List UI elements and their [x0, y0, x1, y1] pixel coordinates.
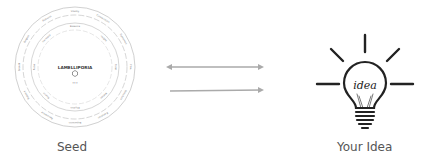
your-idea-caption: Your Idea — [337, 140, 392, 154]
wheel-label: Resonance — [40, 110, 53, 119]
forward-arrow — [170, 87, 264, 93]
wheel-center-icon — [73, 71, 78, 77]
wheel-label: Essence — [70, 25, 80, 28]
wheel-label: Connections — [96, 14, 111, 24]
wheel-label: Harmony — [42, 33, 52, 43]
wheel-label: Expansion — [68, 121, 81, 124]
wheel-label: Growth — [18, 62, 21, 71]
seed-wheel: VitalityConnectionsDynamicsFlowStructure… — [15, 7, 135, 127]
bidirectional-arrow — [166, 64, 264, 70]
wheel-label: Vitality — [71, 10, 80, 13]
wheel-label: Pulse — [33, 63, 36, 70]
wheel-center-title: LAMELLIPORIA — [58, 65, 93, 70]
wheel-label: Form — [114, 64, 117, 71]
wheel-label: Dynamics — [119, 33, 128, 45]
wheel-label: Rhythm — [70, 106, 80, 109]
wheel-center-subtitle: ••• — [72, 81, 78, 85]
wheel-label: Source — [42, 91, 50, 99]
wheel-label: Flow — [129, 64, 132, 70]
seed-caption: Seed — [57, 140, 87, 154]
bulb-text: idea — [353, 79, 377, 92]
